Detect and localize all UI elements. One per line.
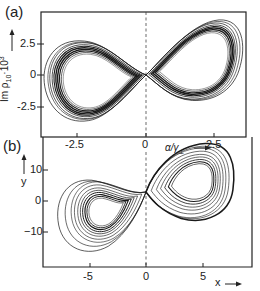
y-arrow-icon [22,154,27,160]
a-xtick-0: 0 [142,138,148,150]
panel-b-left-lobe [58,180,146,251]
x-arrow-icon [236,282,242,287]
a-ytick-2.5: 2.5 [20,37,35,49]
panel-b-label: (b) [3,137,21,154]
b-ytick-neg10: −10 [24,225,43,237]
panel-a-right-lobe [146,20,243,101]
b-ytick-10: 10 [30,163,42,175]
a-xtick-neg2.5: -2.5 [65,138,84,150]
panel-b-ticks [43,170,203,267]
panel-a [37,12,246,137]
a-ytick-0: 0 [30,68,36,80]
panel-a-label: (a) [5,3,23,20]
panel-b-right-lobe [146,144,234,221]
b-ytick-0: 0 [35,194,41,206]
b-xtick-0: 0 [143,270,149,282]
a-xtick-2.5: 2.5 [206,138,221,150]
panel-a-frame [41,12,246,137]
figure: (a) (b) 2.5 0 -2.5 -2.5 0 2.5 α/γ⊥ Im ρ1… [0,0,260,291]
b-ylabel: y [21,175,27,187]
a-ytick-neg2.5: -2.5 [17,100,36,112]
b-xtick-neg5: -5 [83,270,93,282]
a-xlabel: α/γ⊥ [165,142,184,156]
b-xtick-5: 5 [200,270,206,282]
a-ylabel: Im ρ10·103 [0,56,12,102]
panel-a-left-lobe [44,41,146,121]
b-xlabel: x [215,276,221,288]
im-rho-arrow-icon [10,29,15,35]
